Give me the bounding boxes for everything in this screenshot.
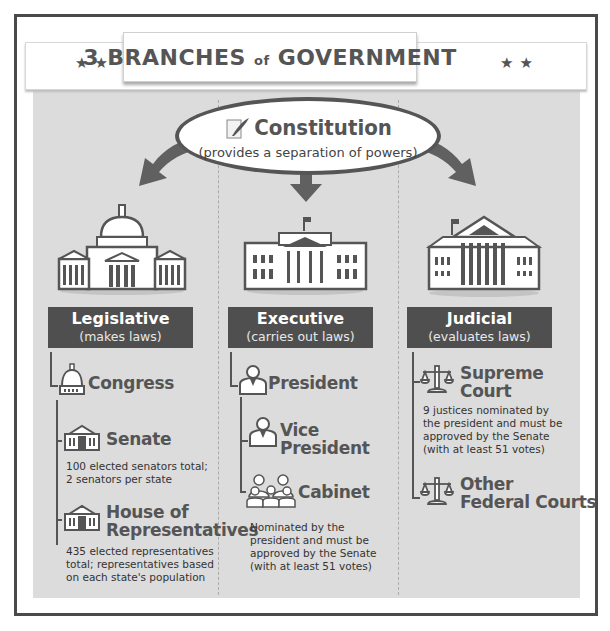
desc-line: approved by the Senate	[423, 430, 562, 443]
scales-of-justice-icon	[420, 364, 454, 394]
title-of: of	[254, 53, 270, 68]
branch-header-judicial: Judicial (evaluates laws)	[407, 307, 552, 348]
column-divider-2	[398, 100, 399, 595]
desc-line: on each state's population	[66, 571, 214, 584]
branch-role: (makes laws)	[48, 329, 193, 345]
desc-line: the president and must be	[423, 417, 562, 430]
branch-role: (carries out laws)	[228, 329, 373, 345]
scroll-quill-icon	[224, 116, 250, 142]
tree-line	[240, 440, 248, 442]
desc-line: (with at least 51 votes)	[250, 560, 377, 573]
cabinet-description: Nominated by the president and must be a…	[250, 521, 377, 573]
tree-line	[50, 385, 58, 387]
branch-name: Executive	[228, 309, 373, 329]
desc-line: 435 elected representatives	[66, 545, 214, 558]
vice-president-label: Vice President	[280, 421, 370, 457]
stars-right: ★★	[500, 54, 539, 72]
desc-line: Nominated by the	[250, 521, 377, 534]
cabinet-label: Cabinet	[298, 483, 370, 501]
capitol-building-icon	[55, 203, 190, 295]
tree-line	[412, 352, 414, 498]
desc-line: 9 justices nominated by	[423, 404, 562, 417]
branch-role: (evaluates laws)	[407, 329, 552, 345]
tree-line	[230, 385, 238, 387]
constitution-title-text: Constitution	[254, 115, 392, 140]
tree-line	[230, 352, 232, 386]
label-line: Other	[460, 475, 596, 493]
constitution-ellipse: Constitution (provides a separation of p…	[175, 97, 441, 175]
label-line: President	[280, 439, 370, 457]
senate-description: 100 elected senators total; 2 senators p…	[66, 460, 208, 486]
house-building-icon	[63, 504, 101, 532]
constitution-title: Constitution	[179, 115, 437, 142]
label-line: Federal Courts	[460, 493, 596, 511]
senate-label: Senate	[106, 430, 171, 448]
other-federal-courts-label: Other Federal Courts	[460, 475, 596, 511]
desc-line: approved by the Senate	[250, 547, 377, 560]
house-description: 435 elected representatives total; repre…	[66, 545, 214, 584]
branch-name: Legislative	[48, 309, 193, 329]
tree-line	[50, 352, 52, 386]
title-part1: 3 BRANCHES	[83, 45, 246, 70]
label-line: Supreme	[460, 364, 544, 382]
desc-line: president and must be	[250, 534, 377, 547]
cabinet-group-icon	[245, 473, 297, 509]
label-line: Court	[460, 382, 544, 400]
vice-president-person-icon	[248, 416, 278, 448]
tree-line	[56, 519, 62, 521]
supreme-court-icon	[425, 213, 543, 297]
house-label: House of Representatives	[106, 503, 258, 539]
senate-building-icon	[63, 424, 101, 452]
desc-line: 2 senators per state	[66, 473, 208, 486]
tree-line	[56, 440, 62, 442]
supreme-court-description: 9 justices nominated by the president an…	[423, 404, 562, 456]
president-label: President	[268, 374, 358, 392]
desc-line: (with at least 51 votes)	[423, 443, 562, 456]
scales-of-justice-icon	[420, 476, 454, 506]
white-house-icon	[243, 215, 368, 295]
tree-line	[412, 497, 420, 499]
desc-line: total; representatives based	[66, 558, 214, 571]
tree-line	[240, 397, 242, 492]
label-line: Vice	[280, 421, 370, 439]
desc-line: 100 elected senators total;	[66, 460, 208, 473]
president-person-icon	[238, 364, 268, 396]
label-line: Representatives	[106, 521, 258, 539]
title-part2: GOVERNMENT	[278, 45, 457, 70]
label-line: House of	[106, 503, 258, 521]
constitution-subtitle: (provides a separation of powers)	[179, 145, 437, 160]
branch-header-legislative: Legislative (makes laws)	[48, 307, 193, 348]
title-banner: 3 BRANCHES of GOVERNMENT	[123, 32, 417, 82]
tree-line	[412, 381, 420, 383]
page-title: 3 BRANCHES of GOVERNMENT	[83, 45, 456, 70]
branch-header-executive: Executive (carries out laws)	[228, 307, 373, 348]
tree-line	[56, 400, 58, 545]
capitol-dome-icon	[58, 362, 86, 396]
congress-label: Congress	[88, 374, 174, 392]
supreme-court-label: Supreme Court	[460, 364, 544, 400]
branch-name: Judicial	[407, 309, 552, 329]
